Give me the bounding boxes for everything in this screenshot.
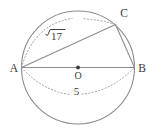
dotted-arc-ab-left [22, 68, 72, 95]
dotted-arc-ac-left [22, 19, 73, 68]
measure-label-diameter: 5 [74, 85, 80, 97]
figure-canvas: A B C O 17 5 [0, 0, 152, 132]
center-label-o: O [74, 70, 81, 81]
geometry-figure: A B C O 17 5 [0, 0, 152, 132]
center-point-dot [76, 66, 80, 70]
point-label-c: C [120, 7, 128, 19]
dotted-arc-ab-right [82, 68, 135, 95]
point-label-a: A [10, 62, 19, 74]
measure-label-arc-ac: 17 [51, 30, 63, 42]
point-label-b: B [138, 62, 146, 74]
chord-segment-bc [116, 25, 135, 68]
